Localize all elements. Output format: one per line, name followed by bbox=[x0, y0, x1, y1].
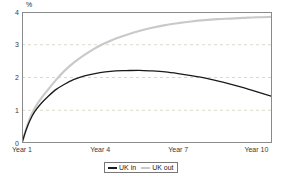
chart-plot-svg bbox=[22, 12, 272, 143]
chart-legend: UK inUK out bbox=[104, 162, 178, 173]
x-axis-tick: Year 10 bbox=[244, 146, 268, 154]
y-axis-tick: 2 bbox=[3, 74, 19, 81]
x-axis-tick: Year 1 bbox=[12, 146, 32, 154]
y-axis-tick: 3 bbox=[3, 41, 19, 48]
series-line bbox=[22, 17, 272, 143]
y-axis-unit-label: % bbox=[26, 1, 32, 9]
legend-label: UK out bbox=[152, 164, 173, 172]
legend-item: UK out bbox=[141, 164, 173, 172]
legend-item: UK in bbox=[108, 164, 136, 172]
legend-label: UK in bbox=[119, 164, 136, 172]
legend-swatch-icon bbox=[108, 167, 117, 169]
legend-swatch-icon bbox=[141, 167, 150, 169]
chart-container: % 01234 Year 1Year 4Year 7Year 10 UK inU… bbox=[0, 0, 282, 178]
x-axis-tick-labels: Year 1Year 4Year 7Year 10 bbox=[0, 146, 282, 158]
y-axis-tick: 1 bbox=[3, 107, 19, 114]
y-axis-tick: 4 bbox=[3, 9, 19, 16]
series-line bbox=[22, 70, 272, 143]
plot-area bbox=[22, 12, 272, 143]
series-lines bbox=[22, 17, 272, 143]
x-axis-tick: Year 7 bbox=[168, 146, 188, 154]
x-axis-tick: Year 4 bbox=[90, 146, 110, 154]
